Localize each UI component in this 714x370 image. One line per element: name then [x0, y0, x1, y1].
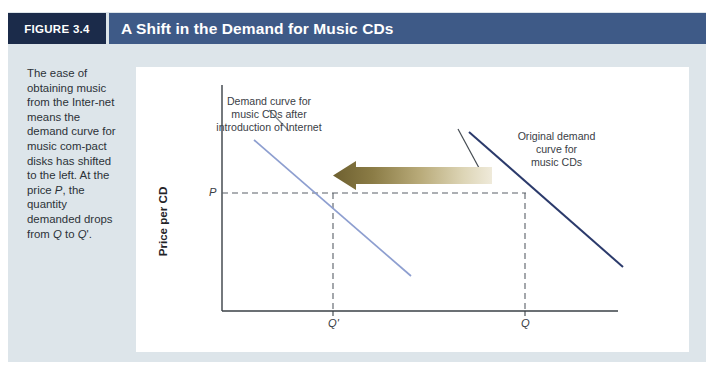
new-demand-curve-label-line3: introduction of Internet [164, 121, 374, 134]
leftward-shift-arrow [333, 161, 492, 190]
original-demand-curve-label: Original demand curve for music CDs [484, 130, 629, 169]
new-demand-curve-label-line1: Demand curve for [164, 95, 374, 108]
original-demand-curve-label-line3: music CDs [484, 156, 629, 169]
new-demand-curve-label: Demand curve for music CDs after introdu… [164, 95, 374, 134]
original-demand-curve-label-line2: curve for [484, 143, 629, 156]
new-demand-curve-label-line2: music CDs after [164, 108, 374, 121]
original-demand-curve-label-line1: Original demand [484, 130, 629, 143]
y-tick-label-p: P [209, 186, 216, 198]
y-axis-title: Price per CD [156, 162, 169, 282]
x-tick-label-q-prime: Q' [328, 317, 339, 329]
figure-title-bar: A Shift in the Demand for Music CDs [109, 13, 706, 44]
chart-panel: Quantity of CDs Demanded Price per CD P … [136, 67, 689, 352]
figure-number-badge: FIGURE 3.4 [8, 13, 106, 44]
x-tick-label-q: Q [521, 317, 530, 329]
figure-caption: The ease of obtaining music from the Int… [27, 66, 119, 241]
figure-header: FIGURE 3.4 A Shift in the Demand for Mus… [8, 13, 706, 44]
figure-container: FIGURE 3.4 A Shift in the Demand for Mus… [0, 0, 714, 370]
figure-title: A Shift in the Demand for Music CDs [121, 13, 393, 44]
